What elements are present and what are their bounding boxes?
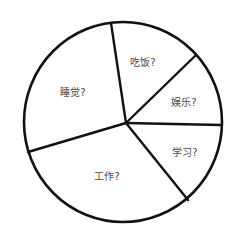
pie-chart: 睡觉? 吃饭? 娱乐? 学习? 工作? bbox=[0, 0, 238, 240]
pie-body bbox=[24, 22, 222, 222]
slice-label-eat: 吃饭? bbox=[130, 56, 155, 68]
slice-label-sleep: 睡觉? bbox=[60, 86, 85, 98]
slice-label-entertainment: 娱乐? bbox=[171, 96, 196, 108]
slice-label-work: 工作? bbox=[94, 171, 119, 182]
pie-outline-circle bbox=[24, 22, 222, 222]
slice-label-study: 学习? bbox=[172, 146, 197, 158]
